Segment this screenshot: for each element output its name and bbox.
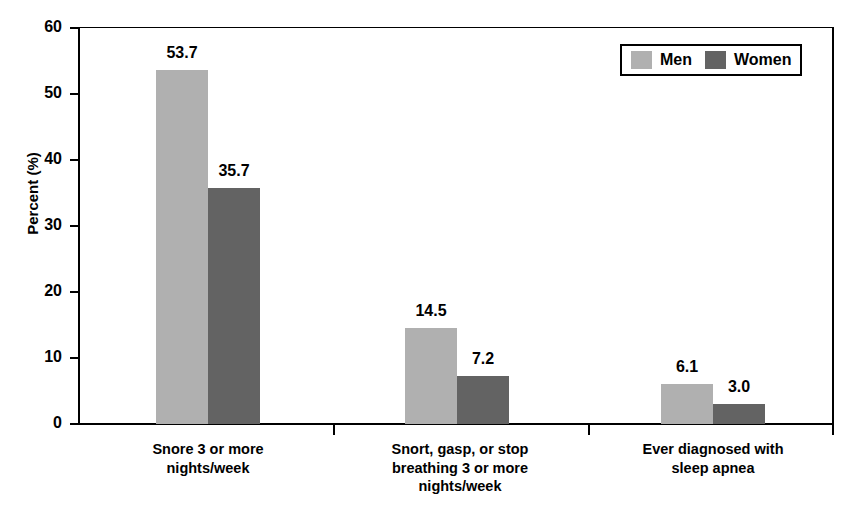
- y-tick-mark-60: [70, 27, 80, 29]
- bar-value-men-apnea: 6.1: [651, 359, 723, 375]
- plot-right-border: [832, 27, 834, 425]
- y-tick-label-50: 50: [22, 85, 62, 101]
- legend-swatch-women-icon: [705, 51, 726, 69]
- bar-value-women-snore: 35.7: [198, 163, 270, 179]
- legend: Men Women: [620, 44, 802, 76]
- y-tick-mark-10: [70, 357, 80, 359]
- x-tick-separator-1: [333, 425, 335, 435]
- bar-women-apnea: [713, 404, 765, 424]
- y-tick-mark-0: [70, 423, 80, 425]
- legend-label-women: Women: [734, 52, 791, 68]
- bar-men-snore: [156, 70, 208, 424]
- y-tick-label-30: 30: [22, 217, 62, 233]
- y-tick-label-20: 20: [22, 283, 62, 299]
- bar-chart: Percent (%) 60 50 40 30 20 10 0 53.7 35.…: [0, 0, 851, 517]
- bar-value-women-snort: 7.2: [447, 351, 519, 367]
- x-axis-label-apnea: Ever diagnosed with sleep apnea: [609, 440, 817, 477]
- legend-label-men: Men: [660, 52, 692, 68]
- x-tick-separator-2: [588, 425, 590, 435]
- y-tick-mark-30: [70, 225, 80, 227]
- legend-entry-women: Women: [705, 51, 791, 69]
- x-axis-label-snort: Snort, gasp, or stop breathing 3 or more…: [356, 440, 564, 496]
- bar-value-men-snort: 14.5: [395, 303, 467, 319]
- y-tick-label-60: 60: [22, 19, 62, 35]
- bar-value-men-snore: 53.7: [146, 45, 218, 61]
- y-tick-label-10: 10: [22, 349, 62, 365]
- legend-swatch-men-icon: [631, 51, 652, 69]
- y-tick-label-40: 40: [22, 151, 62, 167]
- y-tick-mark-50: [70, 93, 80, 95]
- bar-men-snort: [405, 328, 457, 424]
- y-axis-title: Percent (%): [24, 114, 41, 274]
- y-tick-mark-40: [70, 159, 80, 161]
- y-tick-mark-20: [70, 291, 80, 293]
- x-tick-separator-3: [832, 425, 834, 435]
- plot-top-border: [78, 27, 834, 28]
- bar-women-snort: [457, 376, 509, 424]
- legend-entry-men: Men: [631, 51, 692, 69]
- x-axis-label-snore: Snore 3 or more nights/week: [108, 440, 308, 477]
- y-tick-label-0: 0: [22, 415, 62, 431]
- bar-value-women-apnea: 3.0: [703, 379, 775, 395]
- bar-women-snore: [208, 188, 260, 424]
